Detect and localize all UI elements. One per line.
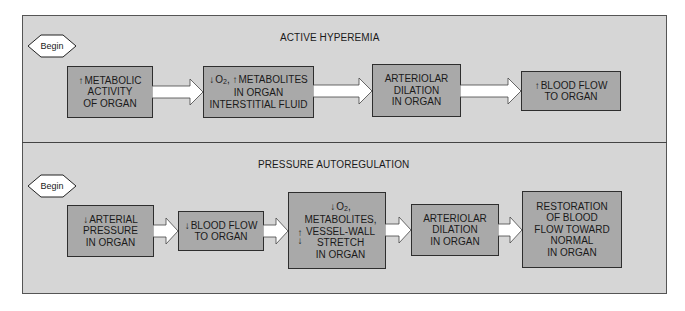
step-text: STRETCH (304, 237, 376, 249)
step-text: INTERSTITIAL FLUID (209, 99, 308, 111)
flow-arrow-icon (153, 217, 179, 245)
step-restoration-of-blood-flow: RESTORATION OF BLOOD FLOW TOWARD NORMAL … (522, 191, 622, 268)
step-text: FLOW TOWARD (534, 224, 609, 236)
down-arrow-icon: ↓ (297, 237, 302, 245)
step-arteriolar-dilation: ARTERIOLAR DILATION IN ORGAN (372, 64, 461, 117)
step-text: IN ORGAN (385, 96, 449, 108)
step-text: ACTIVITY (78, 86, 141, 98)
step-text: METABOLITES (238, 74, 307, 85)
up-arrow-icon: ↑ (232, 74, 237, 85)
step-text: ARTERIAL (89, 214, 138, 225)
flow-arrow-icon (460, 77, 522, 105)
step-decreased-blood-flow: ↓BLOOD FLOW TO ORGAN (178, 211, 264, 251)
step-text: IN ORGAN (534, 247, 609, 259)
step-arteriolar-dilation-2: ARTERIOLAR DILATION IN ORGAN (411, 204, 499, 256)
up-arrow-icon: ↑ (78, 75, 83, 86)
down-arrow-icon: ↓ (83, 214, 88, 225)
begin-marker-active-hyperemia: Begin (27, 34, 77, 58)
step-text: DILATION (423, 224, 487, 236)
flow-arrow-icon (498, 216, 523, 244)
step-decreased-arterial-pressure: ↓ARTERIAL PRESSURE IN ORGAN (67, 205, 154, 257)
o2-text: O (215, 74, 223, 85)
step-text: OF ORGAN (78, 98, 141, 110)
step-o2-metabolites-interstitial: ↓O2, ↑METABOLITES IN ORGAN INTERSTITIAL … (203, 66, 314, 118)
step-text: IN ORGAN (209, 87, 308, 99)
step-text: OF BLOOD (534, 212, 609, 224)
begin-marker-pressure-autoregulation: Begin (27, 174, 77, 198)
begin-label: Begin (27, 34, 77, 58)
o2-subscript: 2 (344, 205, 348, 212)
step-text: IN ORGAN (83, 237, 138, 249)
step-text: VESSEL-WALL (304, 226, 376, 238)
step-text: PRESSURE (83, 225, 138, 237)
step-text: IN ORGAN (423, 236, 487, 248)
down-arrow-icon: ↓ (185, 220, 190, 231)
step-text: TO ORGAN (185, 231, 258, 243)
panel-divider (22, 142, 667, 143)
step-text: METABOLITES, (304, 214, 376, 226)
step-metabolic-activity: ↑METABOLIC ACTIVITY OF ORGAN (67, 66, 153, 118)
flow-arrow-icon (385, 216, 412, 244)
step-text: DILATION (385, 85, 449, 97)
step-text: TO ORGAN (535, 91, 608, 103)
flow-arrow-icon (313, 77, 373, 105)
step-text: IN ORGAN (304, 249, 376, 261)
step-text: METABOLIC (84, 75, 141, 86)
step-text: ARTERIOLAR (423, 213, 487, 225)
step-text: BLOOD FLOW (541, 80, 608, 91)
panel-title-active-hyperemia: ACTIVE HYPEREMIA (280, 32, 379, 43)
up-arrow-icon: ↑ (535, 80, 540, 91)
o2-text: O (336, 201, 344, 212)
step-text: RESTORATION (534, 201, 609, 213)
begin-label: Begin (27, 174, 77, 198)
step-text: NORMAL (534, 235, 609, 247)
panel-title-pressure-autoregulation: PRESSURE AUTOREGULATION (258, 159, 409, 170)
step-text: ARTERIOLAR (385, 73, 449, 85)
o2-subscript: 2 (223, 78, 227, 85)
down-arrow-icon: ↓ (209, 74, 214, 85)
step-text: BLOOD FLOW (191, 220, 258, 231)
flow-arrow-icon (263, 217, 289, 245)
down-arrow-icon: ↓ (330, 201, 335, 212)
step-o2-metabolites-stretch: ↑ ↓ ↓O2, METABOLITES, VESSEL-WALL STRETC… (288, 192, 386, 269)
step-increased-blood-flow: ↑BLOOD FLOW TO ORGAN (521, 71, 621, 111)
flow-arrow-icon (152, 78, 204, 106)
